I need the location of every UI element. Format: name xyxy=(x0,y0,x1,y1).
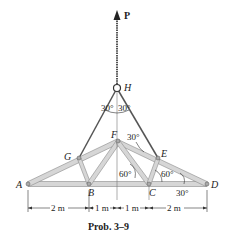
dim-mid-c: 1 m xyxy=(125,203,139,213)
truss-diagram: P H F G E A B C xyxy=(0,0,230,239)
label-f: F xyxy=(110,129,118,140)
dim-ab: 2 m xyxy=(51,203,65,213)
ring-h xyxy=(114,85,121,92)
angle-b: 60° xyxy=(119,169,132,179)
force-label: P xyxy=(124,10,130,21)
label-e: E xyxy=(160,148,167,159)
force-arrow-icon xyxy=(114,10,121,20)
dim-cd: 2 m xyxy=(167,203,181,213)
angle-h-left: 30° xyxy=(101,103,114,113)
label-h: H xyxy=(123,82,132,93)
angle-d: 30° xyxy=(176,188,189,198)
label-g: G xyxy=(64,151,71,162)
figure-caption: Prob. 3–9 xyxy=(88,221,129,232)
angle-f: 30° xyxy=(127,132,140,142)
angle-h-right: 30° xyxy=(118,103,131,113)
label-a: A xyxy=(15,179,23,190)
label-c: C xyxy=(149,187,156,198)
dim-b-mid: 1 m xyxy=(95,203,109,213)
label-d: D xyxy=(210,179,219,190)
angle-c: 60° xyxy=(161,169,174,179)
truss-members xyxy=(27,139,208,187)
